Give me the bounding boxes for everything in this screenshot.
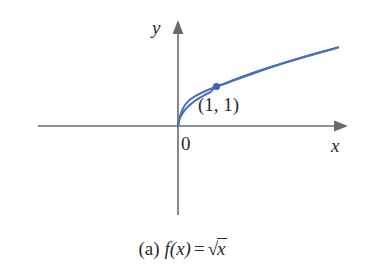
point-coordinate-label: (1, 1)	[198, 95, 239, 114]
caption-function-name: f(x)	[165, 238, 191, 259]
figure-square-root-function: y x 0 (1, 1) (a)f(x)=√x	[0, 0, 365, 274]
caption-radical: √x	[208, 238, 227, 260]
figure-caption: (a)f(x)=√x	[0, 238, 365, 260]
y-axis-arrow-icon	[173, 20, 184, 34]
origin-label: 0	[181, 134, 191, 153]
x-axis-label: x	[331, 136, 339, 155]
data-point-marker	[213, 83, 220, 90]
y-axis-label: y	[152, 18, 160, 37]
x-axis-arrow-icon	[334, 121, 348, 132]
caption-index: (a)	[138, 238, 159, 259]
caption-equals-sign: =	[194, 238, 205, 259]
caption-radicand: x	[217, 238, 226, 260]
